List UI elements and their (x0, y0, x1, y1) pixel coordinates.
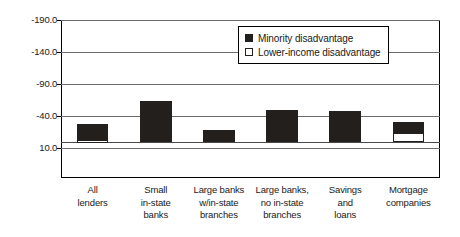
legend-label-minority-disadvantage: Minority disadvantage (258, 33, 353, 44)
bar-lower-income-disadvantage (77, 140, 109, 143)
bar-minority-disadvantage (140, 101, 172, 141)
y-axis-tick: -40.0 (0, 111, 57, 121)
x-axis-label-line: lenders (61, 197, 124, 210)
x-axis-category-label: Savingsandloans (314, 184, 377, 222)
bar-group (124, 20, 187, 178)
x-axis-category-label: Mortgagecompanies (377, 184, 440, 209)
bar-minority-disadvantage (203, 130, 235, 142)
legend-item-lower-income-disadvantage: Lower-income disadvantage (245, 45, 381, 59)
y-axis-tick: -190.0 (0, 15, 57, 25)
y-axis-tick-label: -90.0 (5, 79, 57, 89)
x-axis-category-label: Large banksw/in-statebranches (187, 184, 250, 222)
x-axis-category-label: Smallin-statebanks (124, 184, 187, 222)
x-axis-label-line: Mortgage (377, 184, 440, 197)
x-axis-label-line: branches (251, 209, 314, 222)
x-axis-label-line: Savings (314, 184, 377, 197)
x-axis-label-line: and (314, 197, 377, 210)
chart-legend: Minority disadvantage Lower-income disad… (238, 26, 389, 64)
bar-minority-disadvantage (266, 110, 298, 142)
x-axis-label-line: banks (124, 209, 187, 222)
y-axis-tick: -140.0 (0, 47, 57, 57)
y-axis-tick: -90.0 (0, 79, 57, 89)
bar-lower-income-disadvantage (393, 133, 425, 141)
y-axis-tick-label: 10.0 (5, 143, 57, 153)
x-axis-label-line: branches (187, 209, 250, 222)
x-axis-label-line: w/in-state (187, 197, 250, 210)
x-axis-category-label: Alllenders (61, 184, 124, 209)
legend-swatch-hollow-icon (245, 48, 253, 56)
legend-swatch-filled-icon (245, 34, 253, 42)
x-axis-labels: AlllendersSmallin-statebanksLarge banksw… (61, 184, 440, 234)
bar-group (61, 20, 124, 178)
y-axis-tick-label: -140.0 (5, 47, 57, 57)
y-axis-tick-label: -40.0 (5, 111, 57, 121)
x-axis-label-line: Large banks, (251, 184, 314, 197)
x-axis-label-line: loans (314, 209, 377, 222)
x-axis-category-label: Large banks,no in-statebranches (251, 184, 314, 222)
x-axis-label-line: no in-state (251, 197, 314, 210)
bar-minority-disadvantage (329, 111, 361, 142)
x-axis-label-line: Large banks (187, 184, 250, 197)
x-axis-label-line: companies (377, 197, 440, 210)
y-axis-tick: 10.0 (0, 143, 57, 153)
bar-chart: -190.0-140.0-90.0-40.010.0 Minority disa… (0, 0, 460, 237)
y-axis-tick-label: -190.0 (5, 15, 57, 25)
legend-item-minority-disadvantage: Minority disadvantage (245, 31, 381, 45)
x-axis-label-line: Small (124, 184, 187, 197)
x-axis-label-line: in-state (124, 197, 187, 210)
legend-label-lower-income-disadvantage: Lower-income disadvantage (258, 47, 381, 58)
x-axis-label-line: All (61, 184, 124, 197)
